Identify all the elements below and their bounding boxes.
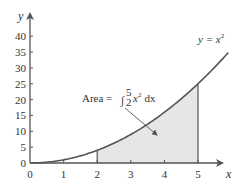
x-tick-label: 4	[162, 168, 168, 180]
x-tick-label: 5	[195, 168, 201, 180]
x-tick-label: 3	[128, 168, 134, 180]
integral-lower-limit: 2	[126, 96, 132, 108]
y-tick-label: 0	[21, 157, 27, 169]
y-tick-label: 30	[15, 62, 27, 74]
area-annotation-prefix: Area =	[82, 92, 112, 104]
integrand: x2dx	[132, 91, 156, 104]
chart: 012345 0510152025303540 x y y = x2 Area …	[0, 0, 245, 186]
y-tick-label: 5	[21, 141, 27, 153]
y-tick-label: 20	[15, 94, 27, 106]
curve-label: y = x2	[197, 32, 225, 45]
integral-sign: ∫	[120, 94, 125, 107]
y-axis-label: y	[17, 9, 24, 23]
x-tick-label: 1	[61, 168, 67, 180]
y-tick-label: 10	[15, 125, 27, 137]
x-axis-label: x	[225, 167, 232, 181]
x-tick-label: 0	[27, 168, 33, 180]
y-tick-label: 15	[15, 109, 27, 121]
curve-label-exponent: 2	[221, 32, 225, 40]
y-tick-label: 40	[15, 30, 27, 42]
y-tick-label: 25	[15, 78, 27, 90]
curve-label-base: y = x	[197, 33, 221, 45]
integrand-differential: dx	[144, 92, 156, 104]
y-tick-label: 35	[15, 46, 27, 58]
x-tick-label: 2	[94, 168, 100, 180]
integrand-exponent: 2	[138, 91, 142, 99]
